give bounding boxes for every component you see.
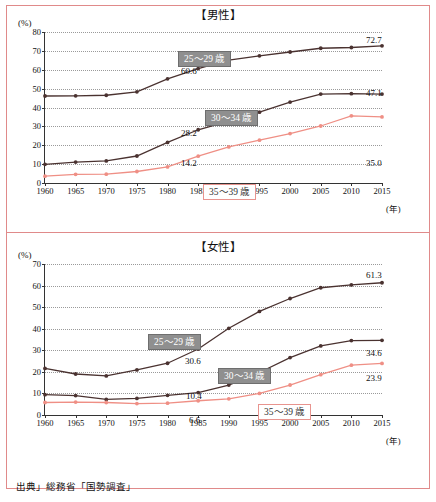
data-point bbox=[74, 172, 78, 176]
y-axis-tick-label: 60 bbox=[33, 281, 42, 291]
chart-panel-female: 【女性】 (%) (年) 010203040506070196019651970… bbox=[0, 238, 436, 453]
data-point bbox=[258, 310, 262, 314]
data-point bbox=[288, 383, 292, 387]
y-axis-unit-female: (%) bbox=[18, 250, 32, 260]
x-axis-tick-mark bbox=[76, 183, 77, 186]
chart-title-male: 【男性】 bbox=[0, 6, 436, 22]
y-axis-tick-label: 10 bbox=[33, 388, 42, 398]
data-point bbox=[380, 362, 384, 366]
data-point bbox=[135, 154, 139, 158]
x-axis-tick-mark bbox=[382, 415, 383, 418]
data-point bbox=[166, 77, 170, 81]
data-point bbox=[319, 344, 323, 348]
x-axis-tick-label: 2010 bbox=[343, 418, 360, 428]
x-axis-tick-mark bbox=[45, 415, 46, 418]
value-label-female-25-29-2015: 61.3 bbox=[366, 270, 382, 280]
data-point bbox=[319, 286, 323, 290]
panel-divider bbox=[6, 232, 430, 233]
x-axis-tick-label: 2000 bbox=[282, 186, 299, 196]
x-axis-tick-label: 1980 bbox=[159, 418, 176, 428]
x-axis-tick-label: 2015 bbox=[374, 186, 391, 196]
x-axis-tick-label: 1970 bbox=[98, 186, 115, 196]
x-axis-tick-mark bbox=[321, 415, 322, 418]
data-point bbox=[166, 165, 170, 169]
data-point bbox=[349, 339, 353, 343]
x-axis-tick-label: 1960 bbox=[37, 186, 54, 196]
y-axis-tick-label: 30 bbox=[33, 345, 42, 355]
value-label-male-35-39-1985: 14.2 bbox=[181, 158, 197, 168]
data-point bbox=[135, 170, 139, 174]
data-point bbox=[135, 402, 139, 406]
x-axis-unit-male: (年) bbox=[386, 202, 401, 214]
data-point bbox=[349, 283, 353, 287]
data-point bbox=[380, 115, 384, 119]
legend-label-female-30-34: 30〜34 歳 bbox=[218, 368, 271, 384]
data-point bbox=[349, 114, 353, 118]
data-point bbox=[288, 50, 292, 54]
data-point bbox=[319, 46, 323, 50]
data-point bbox=[196, 154, 200, 158]
x-axis-tick-mark bbox=[198, 183, 199, 186]
value-label-female-30-34-2015: 34.6 bbox=[366, 348, 382, 358]
x-axis-tick-mark bbox=[229, 415, 230, 418]
value-label-male-30-34-1985: 28.2 bbox=[181, 128, 197, 138]
data-point bbox=[349, 92, 353, 96]
y-axis-tick-label: 70 bbox=[33, 46, 42, 56]
x-axis-tick-label: 1990 bbox=[220, 418, 237, 428]
legend-label-male-35-39: 35〜39 歳 bbox=[203, 184, 256, 200]
x-axis-tick-label: 2005 bbox=[312, 186, 329, 196]
data-point bbox=[349, 46, 353, 50]
y-axis-tick-label: 80 bbox=[33, 27, 42, 37]
data-point bbox=[74, 394, 78, 398]
data-point bbox=[104, 374, 108, 378]
x-axis-tick-mark bbox=[106, 415, 107, 418]
x-axis-tick-mark bbox=[45, 183, 46, 186]
data-point bbox=[166, 361, 170, 365]
x-axis-tick-label: 2015 bbox=[374, 418, 391, 428]
x-axis-tick-label: 1960 bbox=[37, 418, 54, 428]
y-axis-tick-label: 70 bbox=[33, 259, 42, 269]
x-axis-tick-mark bbox=[351, 183, 352, 186]
data-point bbox=[166, 141, 170, 145]
data-point bbox=[135, 396, 139, 400]
data-point bbox=[74, 372, 78, 376]
data-point bbox=[380, 281, 384, 285]
data-point bbox=[288, 132, 292, 136]
y-axis-tick-label: 50 bbox=[33, 302, 42, 312]
plot-area-female: 0102030405060701960196519701975198019851… bbox=[44, 264, 382, 416]
data-point bbox=[135, 368, 139, 372]
data-point bbox=[227, 397, 231, 401]
data-point bbox=[74, 400, 78, 404]
chart-panel-male: 【男性】 (%) (年) 010203040506070801960196519… bbox=[0, 6, 436, 221]
data-point bbox=[43, 162, 47, 166]
legend-label-female-25-29: 25〜29 歳 bbox=[148, 334, 201, 350]
source-note: 出典」総務省「国勢調査」 bbox=[16, 479, 136, 493]
y-axis-tick-label: 20 bbox=[33, 140, 42, 150]
data-point bbox=[104, 401, 108, 405]
series-line-1 bbox=[45, 94, 382, 165]
x-axis-tick-label: 2005 bbox=[312, 418, 329, 428]
legend-label-male-25-29: 25〜29 歳 bbox=[178, 51, 231, 67]
data-point bbox=[288, 356, 292, 360]
legend-label-male-30-34: 30〜34 歳 bbox=[205, 110, 258, 126]
x-axis-tick-label: 1975 bbox=[128, 418, 145, 428]
x-axis-tick-mark bbox=[168, 183, 169, 186]
y-axis-unit-male: (%) bbox=[18, 18, 32, 28]
y-axis-tick-label: 10 bbox=[33, 159, 42, 169]
value-label-male-30-34-2015: 47.1 bbox=[366, 88, 382, 98]
legend-label-female-35-39: 35〜39 歳 bbox=[258, 404, 311, 420]
x-axis-tick-label: 1965 bbox=[67, 186, 84, 196]
value-label-male-35-39-2015: 35.0 bbox=[366, 158, 382, 168]
data-point bbox=[74, 94, 78, 98]
data-point bbox=[135, 90, 139, 94]
data-point bbox=[380, 338, 384, 342]
x-axis-tick-label: 1965 bbox=[67, 418, 84, 428]
x-axis-tick-mark bbox=[290, 183, 291, 186]
data-point bbox=[104, 172, 108, 176]
chart-title-female: 【女性】 bbox=[0, 238, 436, 254]
data-point bbox=[74, 160, 78, 164]
data-point bbox=[196, 128, 200, 132]
data-point bbox=[104, 159, 108, 163]
data-point bbox=[319, 124, 323, 128]
data-point bbox=[43, 367, 47, 371]
